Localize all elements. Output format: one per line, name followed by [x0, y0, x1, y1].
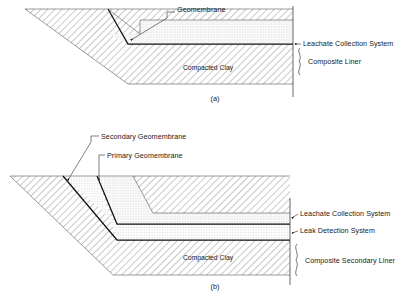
- leachate-collection-system-label-b: Leachate Collection System: [300, 209, 390, 218]
- compacted-clay-label-b: Compacted Clay: [183, 254, 234, 262]
- panel-b-caption: (b): [210, 282, 219, 291]
- landfill-liner-figure: Geomembrane Leachate Collection System C…: [0, 0, 405, 302]
- composite-secondary-liner-label-b: Composite Secondary Liner: [305, 256, 395, 265]
- secondary-geomembrane-label-b: Secondary Geomembrane: [101, 132, 186, 141]
- composite-liner-label-a: Composite Liner: [308, 57, 362, 66]
- compacted-clay-label-a: Compacted Clay: [183, 64, 234, 72]
- leachate-collection-system-label-a: Leachate Collection System: [303, 39, 393, 48]
- primary-geomembrane-label-b: Primary Geomembrane: [107, 151, 183, 160]
- geomembrane-label-a: Geomembrane: [177, 5, 226, 14]
- leak-detection-system-label-b: Leak Detection System: [300, 226, 375, 235]
- panel-a-caption: (a): [210, 94, 219, 103]
